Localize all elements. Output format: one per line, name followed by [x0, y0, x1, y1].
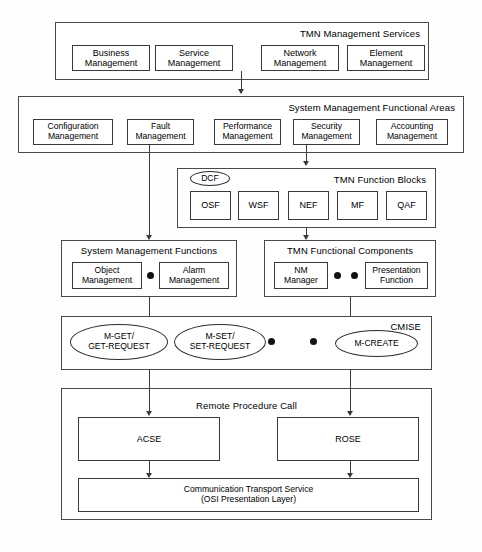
- node-label: M-GET/ GET-REQUEST: [88, 332, 150, 352]
- connector-arrow: [303, 161, 309, 166]
- diagram-canvas: TMN Management Services Business Managem…: [0, 0, 482, 552]
- node-label: Element Management: [360, 48, 413, 69]
- group-title-system-management-functional-areas: System Management Functional Areas: [288, 102, 455, 113]
- node-fault-management[interactable]: Fault Management: [127, 119, 194, 145]
- badge-dcf[interactable]: DCF: [190, 171, 230, 186]
- node-label: Communication Transport Service (OSI Pre…: [184, 485, 313, 505]
- connector-arrow: [146, 411, 152, 416]
- node-service-management[interactable]: Service Management: [155, 45, 233, 71]
- group-title-cmise: CMISE: [390, 321, 421, 332]
- node-nef[interactable]: NEF: [288, 191, 329, 220]
- node-label: Security Management: [301, 122, 351, 142]
- node-accounting-management[interactable]: Accounting Management: [376, 119, 448, 145]
- connector-arrow: [238, 89, 244, 94]
- node-performance-management[interactable]: Performance Management: [214, 119, 281, 145]
- ellipsis-dot: [334, 272, 341, 279]
- node-label: Alarm Management: [169, 266, 219, 286]
- connector-smf-to-cmise: [149, 297, 150, 316]
- ellipsis-dot: [268, 338, 275, 345]
- connector-rpc-to-rose: [350, 389, 351, 413]
- node-osf[interactable]: OSF: [190, 191, 231, 220]
- group-title-tmn-functional-components: TMN Functional Components: [265, 245, 435, 256]
- node-acse[interactable]: ACSE: [78, 417, 220, 461]
- ellipsis-dot: [351, 272, 358, 279]
- group-title-tmn-management-services: TMN Management Services: [300, 28, 420, 39]
- connector-arrow: [347, 411, 353, 416]
- node-m-get[interactable]: M-GET/ GET-REQUEST: [70, 324, 168, 360]
- node-rose[interactable]: ROSE: [277, 417, 419, 461]
- node-label: Configuration Management: [47, 122, 98, 142]
- node-m-create[interactable]: M-CREATE: [335, 330, 418, 357]
- node-label: WSF: [249, 200, 269, 210]
- node-label: Service Management: [168, 48, 221, 69]
- node-wsf[interactable]: WSF: [238, 191, 279, 220]
- connector-components-to-cmise: [350, 297, 351, 316]
- node-label: Fault Management: [135, 122, 185, 142]
- node-business-management[interactable]: Business Management: [72, 45, 150, 71]
- connector-fault-to-smf: [149, 145, 150, 237]
- node-presentation-function[interactable]: Presentation Function: [365, 262, 428, 289]
- node-security-management[interactable]: Security Management: [293, 119, 360, 145]
- node-qaf[interactable]: QAF: [386, 191, 427, 220]
- node-nm-manager[interactable]: NM Manager: [274, 262, 328, 289]
- node-label: Business Management: [85, 48, 138, 69]
- group-title-tmn-function-blocks: TMN Function Blocks: [334, 174, 426, 185]
- node-label: Network Management: [274, 48, 327, 69]
- node-communication-transport-service[interactable]: Communication Transport Service (OSI Pre…: [78, 478, 419, 512]
- node-network-management[interactable]: Network Management: [261, 45, 339, 71]
- group-title-system-management-functions: System Management Functions: [62, 245, 236, 256]
- group-title-remote-procedure-call: Remote Procedure Call: [62, 400, 431, 411]
- node-label: Object Management: [82, 266, 132, 286]
- badge-label: DCF: [201, 174, 219, 184]
- node-label: QAF: [397, 200, 416, 210]
- node-label: Accounting Management: [387, 122, 437, 142]
- node-label: OSF: [201, 200, 220, 210]
- node-label: Presentation Function: [372, 266, 420, 286]
- node-m-set[interactable]: M-SET/ SET-REQUEST: [174, 324, 266, 360]
- node-configuration-management[interactable]: Configuration Management: [33, 119, 113, 145]
- node-label: M-CREATE: [354, 339, 398, 349]
- node-element-management[interactable]: Element Management: [347, 45, 425, 71]
- connector-rpc-to-acse: [149, 389, 150, 413]
- node-label: M-SET/ SET-REQUEST: [190, 332, 251, 352]
- ellipsis-dot: [310, 338, 317, 345]
- ellipsis-dot: [147, 272, 154, 279]
- node-label: NEF: [300, 200, 318, 210]
- connector-cmise-to-rpc-left: [149, 370, 150, 389]
- node-label: ACSE: [137, 434, 162, 444]
- node-label: ROSE: [335, 434, 361, 444]
- node-object-management[interactable]: Object Management: [72, 262, 142, 289]
- node-label: NM Manager: [284, 266, 318, 286]
- node-label: Performance Management: [222, 122, 272, 142]
- node-alarm-management[interactable]: Alarm Management: [159, 262, 229, 289]
- node-mf[interactable]: MF: [337, 191, 378, 220]
- node-label: MF: [351, 200, 364, 210]
- connector-cmise-to-rpc-right: [350, 370, 351, 389]
